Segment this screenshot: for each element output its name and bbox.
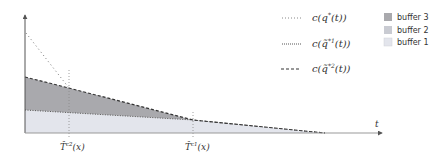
marker-label-c2: T̂c2(x): [60, 141, 85, 152]
svg-text:c(q*(t)): c(q*(t)): [312, 11, 347, 23]
buffer-1-region: [25, 110, 325, 133]
buffer-2-label: buffer 2: [397, 26, 429, 35]
legend-entry-c-q-star: c(q*(t)): [282, 11, 347, 23]
buffer-1-swatch: [384, 38, 392, 46]
buffer-3-swatch: [384, 13, 392, 21]
line-legend: c(q*(t)) c(q̃*1(t)) c(q̃*2(t)): [281, 11, 351, 74]
buffer-3-label: buffer 3: [397, 13, 429, 22]
buffer-2-swatch: [384, 26, 392, 34]
buffer-1-label: buffer 1: [397, 38, 429, 47]
area-legend: buffer 3 buffer 2 buffer 1: [384, 13, 429, 47]
legend-entry-c-q-tilde-1: c(q̃*1(t)): [282, 37, 351, 49]
marker-label-c1: T̂c1(x): [185, 141, 210, 152]
svg-text:c(q̃*2(t)): c(q̃*2(t)): [312, 62, 351, 74]
buffer-diagram: t T̂c2(x) T̂c1(x) c(q*(t)) c(q̃*1(t)) c(…: [0, 0, 441, 162]
legend-entry-c-q-tilde-2: c(q̃*2(t)): [281, 62, 351, 74]
x-axis-label: t: [375, 119, 379, 129]
svg-text:c(q̃*1(t)): c(q̃*1(t)): [312, 37, 351, 49]
